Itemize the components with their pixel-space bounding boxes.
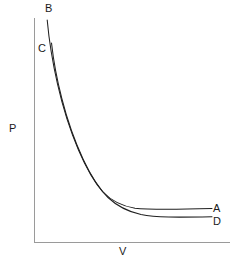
point-label-d: D [213, 216, 221, 227]
lower-isotherm-curve [52, 43, 213, 217]
point-label-c: C [38, 43, 46, 54]
point-label-b: B [45, 3, 52, 14]
point-label-a: A [213, 203, 220, 214]
pressure-axis-label: P [9, 123, 16, 134]
plot-canvas [0, 0, 233, 263]
pv-diagram-figure: P V B C A D [0, 0, 233, 263]
upper-isotherm-curve [47, 20, 212, 209]
volume-axis-label: V [119, 246, 126, 257]
